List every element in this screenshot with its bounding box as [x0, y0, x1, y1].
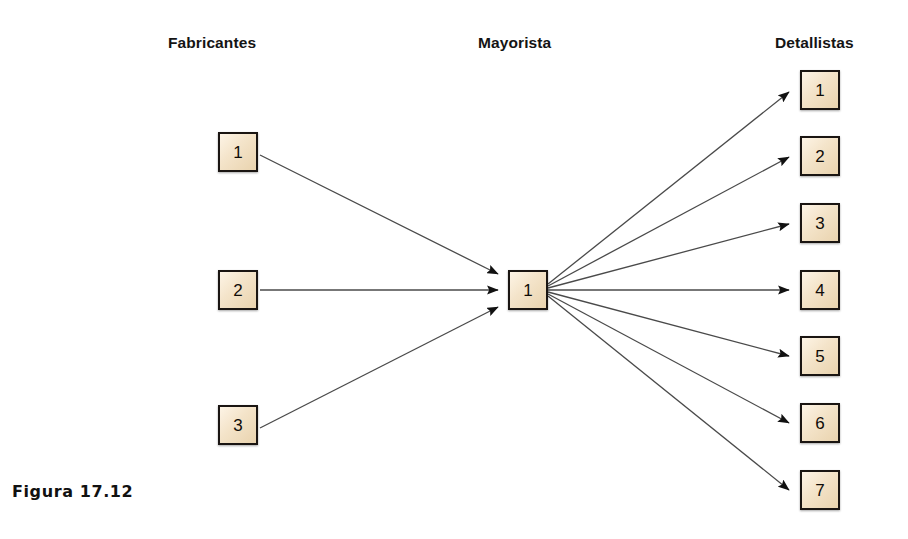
detallista-node-4-label: 4 — [802, 272, 838, 308]
connector-layer — [0, 0, 908, 539]
fabricante-node-3-label: 3 — [220, 407, 256, 443]
fabricante-node-2[interactable]: 2 — [218, 270, 258, 310]
inbound-connectors — [260, 155, 498, 428]
detallista-node-7-label: 7 — [802, 472, 838, 508]
connector-mayorista-to-detallista-2 — [548, 157, 789, 286]
connector-fabricante-to-mayorista-1 — [260, 155, 498, 274]
connector-fabricante-to-mayorista-3 — [260, 307, 498, 428]
figure-caption: Figura 17.12 — [12, 482, 133, 501]
detallista-node-1[interactable]: 1 — [800, 70, 840, 110]
detallista-node-2[interactable]: 2 — [800, 136, 840, 176]
detallista-node-1-label: 1 — [802, 72, 838, 108]
detallista-node-7[interactable]: 7 — [800, 470, 840, 510]
detallista-node-3[interactable]: 3 — [800, 203, 840, 243]
detallista-node-5[interactable]: 5 — [800, 336, 840, 376]
outbound-connectors — [548, 92, 789, 490]
connector-mayorista-to-detallista-6 — [548, 294, 789, 423]
connector-mayorista-to-detallista-5 — [548, 292, 789, 356]
fabricante-node-3[interactable]: 3 — [218, 405, 258, 445]
distribution-channel-diagram: Fabricantes Mayorista Detallistas 123 1 … — [0, 0, 908, 539]
detallista-node-6-label: 6 — [802, 405, 838, 441]
detallista-node-5-label: 5 — [802, 338, 838, 374]
detallista-node-3-label: 3 — [802, 205, 838, 241]
mayorista-node-1[interactable]: 1 — [508, 270, 548, 310]
connector-mayorista-to-detallista-7 — [548, 296, 789, 490]
fabricante-node-1[interactable]: 1 — [218, 132, 258, 172]
detallista-node-6[interactable]: 6 — [800, 403, 840, 443]
detallista-node-4[interactable]: 4 — [800, 270, 840, 310]
fabricante-node-2-label: 2 — [220, 272, 256, 308]
mayorista-node-1-label: 1 — [510, 272, 546, 308]
connector-mayorista-to-detallista-1 — [548, 92, 789, 284]
detallista-node-2-label: 2 — [802, 138, 838, 174]
fabricante-node-1-label: 1 — [220, 134, 256, 170]
